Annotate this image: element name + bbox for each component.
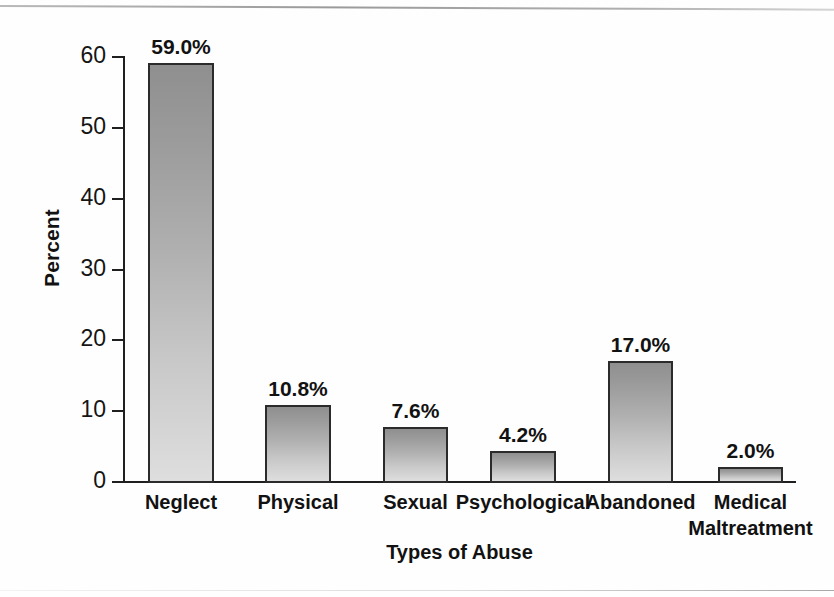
- y-tick-label-text: 40: [54, 186, 106, 209]
- bar: [265, 405, 331, 484]
- bar: [148, 63, 214, 483]
- y-tick-label-text: 10: [54, 398, 106, 421]
- y-tick-mark: [112, 481, 123, 483]
- bar: [608, 361, 673, 483]
- bar-chart-plot-area: Percent Types of Abuse 0102030405060 59.…: [0, 0, 834, 597]
- x-category-label: Medical Maltreatment: [666, 489, 834, 541]
- y-tick-mark: [112, 198, 123, 200]
- bar: [383, 427, 448, 483]
- y-tick-label: 10: [50, 398, 106, 422]
- bar-value-label: 2.0%: [691, 439, 811, 463]
- y-tick-label-text: 60: [54, 44, 106, 67]
- y-tick-label: 30: [50, 257, 106, 281]
- y-tick-label: 60: [50, 44, 106, 68]
- bar: [718, 467, 783, 483]
- bar-value-label: 4.2%: [463, 423, 583, 447]
- bar-value-label: 17.0%: [581, 333, 701, 357]
- y-tick-label: 40: [50, 186, 106, 210]
- y-tick-mark: [112, 410, 123, 412]
- y-tick-label-text: 20: [54, 327, 106, 350]
- bar-value-label: 59.0%: [121, 35, 241, 59]
- y-tick-mark: [112, 339, 123, 341]
- y-tick-mark: [112, 127, 123, 129]
- figure-canvas: Percent Types of Abuse 0102030405060 59.…: [0, 0, 834, 597]
- y-tick-label-text: 50: [54, 115, 106, 138]
- y-axis-line: [123, 56, 125, 483]
- bar-value-label: 7.6%: [356, 399, 476, 423]
- y-tick-label: 20: [50, 327, 106, 351]
- bar-value-label: 10.8%: [238, 377, 358, 401]
- x-axis-line: [123, 481, 796, 483]
- y-tick-label: 50: [50, 115, 106, 139]
- bar: [490, 451, 556, 483]
- y-tick-label-text: 30: [54, 257, 106, 280]
- y-tick-mark: [112, 269, 123, 271]
- x-axis-title: Types of Abuse: [123, 541, 796, 564]
